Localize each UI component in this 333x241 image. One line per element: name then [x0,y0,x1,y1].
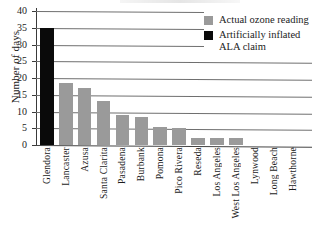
x-axis-label: Lynwood [250,147,260,184]
bar [191,138,205,145]
x-axis-label: Hawthorne [288,147,298,191]
bar [210,138,224,145]
x-axis-label: Burbank [136,147,146,181]
scan-edge-artifact [120,0,240,3]
bar [97,101,111,145]
bar [229,138,243,145]
x-axis-label: Reseda [193,147,203,176]
y-tick-label: 40 [17,6,27,16]
bar [59,83,73,145]
y-tick-label: 35 [17,23,27,33]
x-axis-label: Los Angeles [212,147,222,196]
legend-swatch-black-icon [204,31,213,40]
x-axis-label: Pico Rivera [174,147,184,194]
y-axis-title: Number of days [9,20,23,114]
legend-swatch-gray-icon [204,16,213,25]
y-tick-label: 10 [17,107,27,117]
y-tick-label: 20 [17,73,27,83]
bar [78,88,92,145]
x-axis-label: Long Beach [269,147,279,195]
y-tick-label: 30 [17,40,27,50]
legend-item-actual: Actual ozone reading [204,14,309,26]
bar [172,128,186,145]
bar [135,117,149,145]
x-axis-label: Lancaster [61,147,71,186]
chart-legend: Actual ozone reading Artificially inflat… [204,10,333,52]
x-axis-label: Pasadena [117,147,127,184]
x-axis-label: West Los Angeles [231,147,241,219]
ozone-days-bar-chart: Number of days 0510152025303540 Glendora… [0,0,333,241]
y-tick-label: 25 [17,56,27,66]
y-tick-label: 0 [22,140,27,150]
x-axis-label: Glendora [42,147,52,184]
bar [153,127,167,145]
x-axis-label: Pomona [155,147,165,179]
x-axis-label: Azusa [80,147,90,172]
x-axis-labels: GlendoraLancasterAzusaSanta ClaritaPasad… [36,147,312,241]
legend-item-inflated: Artificially inflated ALA claim [204,29,300,52]
y-tick-label: 5 [22,123,27,133]
legend-label-actual: Actual ozone reading [219,14,309,26]
legend-label-inflated: Artificially inflated ALA claim [219,29,300,52]
bar [116,115,130,145]
y-tick-label: 15 [17,90,27,100]
x-axis-label: Santa Clarita [99,147,109,199]
bar [40,28,54,145]
